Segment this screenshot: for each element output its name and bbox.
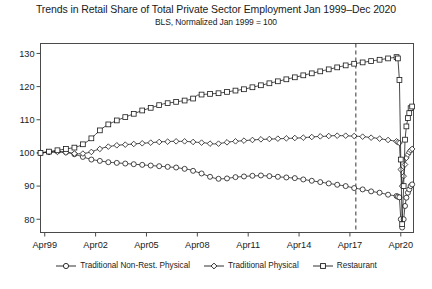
data-point-circle: [343, 184, 348, 189]
data-point-square: [352, 61, 357, 66]
data-point-square: [233, 88, 238, 93]
data-point-diamond: [207, 141, 213, 147]
data-point-square: [174, 99, 179, 104]
data-point-square: [267, 81, 272, 86]
data-point-square: [377, 57, 382, 62]
data-point-circle: [131, 162, 136, 167]
data-point-diamond: [250, 137, 256, 143]
data-point-diamond: [284, 136, 290, 142]
data-point-diamond: [148, 140, 154, 146]
y-tick-label: 80: [24, 215, 34, 225]
data-point-square: [97, 128, 102, 133]
x-tick-label: Apr02: [83, 240, 108, 250]
legend-key-square-icon: [312, 261, 334, 271]
data-point-diamond: [258, 137, 264, 143]
data-point-circle: [114, 160, 119, 165]
data-point-square: [284, 77, 289, 82]
x-tick-label: Apr08: [185, 240, 210, 250]
data-point-square: [360, 60, 365, 65]
data-point-square: [407, 111, 412, 116]
data-point-circle: [275, 174, 280, 179]
data-point-circle: [360, 187, 365, 192]
data-point-diamond: [190, 139, 196, 145]
data-point-square: [403, 137, 408, 142]
data-point-circle: [386, 192, 391, 197]
data-point-diamond: [97, 146, 103, 152]
data-point-square: [343, 63, 348, 68]
legend-item-traditional-physical[interactable]: Traditional Physical: [203, 261, 299, 271]
data-point-diamond: [182, 139, 188, 145]
data-point-circle: [182, 166, 187, 171]
chart-figure: Trends in Retail Share of Total Private …: [0, 0, 432, 289]
chart-legend: Traditional Non-Rest. Physical Tradition…: [0, 261, 432, 271]
data-point-diamond: [156, 139, 162, 145]
data-point-circle: [404, 195, 409, 200]
data-point-square: [250, 85, 255, 90]
data-point-square: [191, 96, 196, 101]
data-point-diamond: [106, 144, 112, 150]
data-point-circle: [369, 189, 374, 194]
data-point-square: [64, 147, 69, 152]
data-point-circle: [292, 176, 297, 181]
data-point-square: [400, 222, 405, 227]
data-point-square: [114, 118, 119, 123]
data-point-square: [199, 92, 204, 97]
legend-label-traditional-non-rest-physical: Traditional Non-Rest. Physical: [80, 262, 190, 270]
data-point-diamond: [385, 137, 391, 143]
x-tick-label: Apr17: [338, 240, 363, 250]
data-point-square: [157, 103, 162, 108]
data-point-circle: [148, 163, 153, 168]
data-point-diamond: [199, 140, 205, 146]
data-point-circle: [106, 160, 111, 165]
x-tick-label: Apr14: [287, 240, 312, 250]
data-point-square: [123, 115, 128, 120]
data-point-square: [301, 73, 306, 78]
data-point-square: [165, 101, 170, 106]
data-point-circle: [267, 174, 272, 179]
legend-key-diamond-icon: [203, 261, 225, 271]
data-point-circle: [352, 186, 357, 191]
data-point-square: [72, 145, 77, 150]
legend-label-restaurant: Restaurant: [337, 262, 377, 270]
data-point-square: [401, 184, 406, 189]
series-traditional-non-rest-physical: [38, 149, 415, 230]
data-point-diamond: [114, 142, 120, 148]
data-point-diamond: [122, 142, 128, 148]
data-point-square: [397, 78, 402, 83]
data-point-circle: [326, 181, 331, 186]
data-point-circle: [208, 174, 213, 179]
data-point-square: [140, 108, 145, 113]
data-point-diamond: [216, 141, 222, 147]
legend-item-restaurant[interactable]: Restaurant: [312, 261, 377, 271]
data-point-diamond: [377, 136, 383, 142]
data-point-square: [225, 90, 230, 95]
data-point-circle: [191, 168, 196, 173]
data-point-circle: [318, 180, 323, 185]
data-point-circle: [258, 173, 263, 178]
plot-frame: [41, 44, 414, 233]
data-point-circle: [410, 182, 415, 187]
data-point-diamond: [241, 138, 247, 144]
data-point-square: [182, 98, 187, 103]
data-point-circle: [199, 171, 204, 176]
data-point-diamond: [173, 139, 179, 145]
data-point-circle: [216, 176, 221, 181]
x-tick-label: Apr11: [236, 240, 260, 250]
data-point-square: [259, 83, 264, 88]
legend-item-traditional-non-rest-physical[interactable]: Traditional Non-Rest. Physical: [55, 261, 190, 271]
data-point-circle: [250, 173, 255, 178]
data-point-circle: [284, 175, 289, 180]
data-point-square: [47, 149, 52, 154]
data-point-square: [275, 79, 280, 84]
data-point-circle: [241, 174, 246, 179]
data-point-circle: [157, 164, 162, 169]
y-tick-label: 90: [24, 181, 34, 191]
y-tick-label: 110: [20, 115, 35, 125]
data-point-square: [309, 71, 314, 76]
x-tick-label: Apr05: [134, 240, 159, 250]
data-point-square: [131, 111, 136, 116]
y-tick-label: 100: [19, 148, 34, 158]
data-point-diamond: [292, 135, 298, 141]
data-point-circle: [97, 158, 102, 163]
data-point-diamond: [402, 162, 408, 168]
